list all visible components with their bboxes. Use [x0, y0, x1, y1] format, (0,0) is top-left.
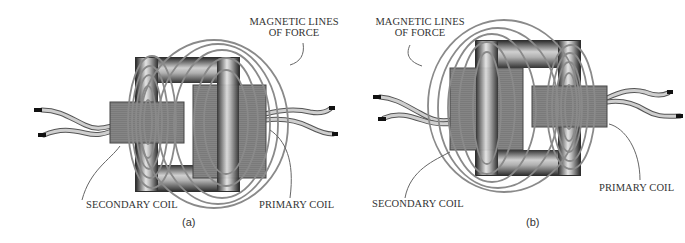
secondary-coil-label-a: SECONDARY COIL — [86, 199, 178, 210]
figure-a-labels: MAGNETIC LINES OF FORCE SECONDARY COIL P… — [0, 0, 345, 243]
magnetic-lines-line1: MAGNETIC LINES — [244, 16, 344, 27]
secondary-coil-label-b: SECONDARY COIL — [372, 198, 464, 209]
magnetic-lines-line2: OF FORCE — [368, 27, 472, 38]
primary-coil-label-a: PRIMARY COIL — [259, 199, 334, 210]
caption-b: (b) — [526, 216, 539, 228]
magnetic-lines-line2: OF FORCE — [244, 27, 344, 38]
caption-a: (a) — [182, 216, 195, 228]
magnetic-lines-label-b: MAGNETIC LINES OF FORCE — [368, 16, 472, 38]
primary-coil-label-b: PRIMARY COIL — [599, 182, 674, 193]
magnetic-lines-label-a: MAGNETIC LINES OF FORCE — [244, 16, 344, 38]
magnetic-lines-line1: MAGNETIC LINES — [368, 16, 472, 27]
figure-b-labels: MAGNETIC LINES OF FORCE SECONDARY COIL P… — [340, 0, 685, 243]
